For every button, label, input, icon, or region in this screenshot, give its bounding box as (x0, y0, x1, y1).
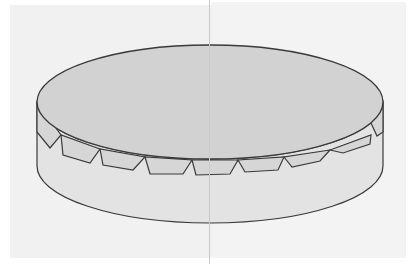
cylinder-top (37, 45, 383, 159)
flap-5 (192, 160, 238, 175)
flap-4 (145, 157, 192, 174)
cylinder-diagram (0, 0, 415, 266)
flap-6 (238, 157, 284, 172)
scan-fold-line (209, 0, 210, 264)
